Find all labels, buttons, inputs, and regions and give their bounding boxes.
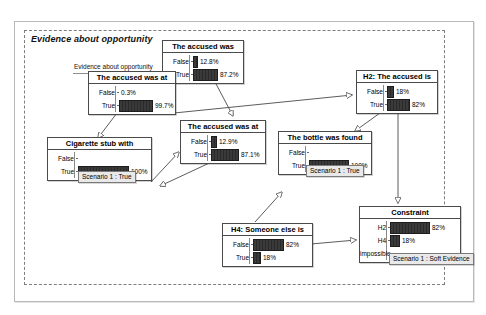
- chart-row-label: False: [48, 155, 76, 163]
- chart-bar-wrap: 82%: [387, 99, 435, 110]
- chart-row-label: True: [357, 101, 385, 109]
- chart-row-label: True: [223, 254, 251, 262]
- scenario-badge[interactable]: Scenario 1 : Soft Evidence: [389, 253, 474, 265]
- chart-row-label: True: [181, 151, 209, 159]
- chart-row: True99.7%: [89, 99, 173, 112]
- chart-bar-value: 87.2%: [220, 71, 238, 79]
- chart-bar-value: 18%: [263, 254, 276, 262]
- chart-bar-wrap: 18%: [390, 235, 458, 246]
- chart-bar-wrap: [309, 147, 369, 158]
- node-title: H2: The accused is: [357, 71, 437, 83]
- node-title: The accused was at: [181, 121, 265, 133]
- chart-row: True82%: [357, 98, 435, 111]
- chart-bar-value: 99.7%: [155, 102, 173, 110]
- chart-row-label: H2: [360, 224, 388, 232]
- chart-row-label: False: [279, 149, 307, 157]
- chart-row: False: [279, 146, 369, 159]
- chart-row-label: False: [181, 138, 209, 146]
- chart-bar-value: 12.8%: [200, 58, 218, 66]
- chart-bar-wrap: 82%: [390, 222, 458, 233]
- chart-row: False18%: [357, 85, 435, 98]
- chart-bar: [193, 69, 218, 81]
- node-h4-someone-else[interactable]: H4: Someone else isFalse82%True18%: [222, 223, 313, 267]
- node-title: H4: Someone else is: [223, 224, 312, 236]
- chart-bar: [193, 56, 198, 68]
- floating-node-label: Evidence about opportunity: [74, 63, 153, 71]
- node-title: Constraint: [360, 207, 460, 219]
- scenario-badge[interactable]: Scenario 1 : True: [306, 165, 364, 177]
- chart-bar-wrap: 99.7%: [119, 100, 173, 111]
- chart-row-label: False: [357, 88, 385, 96]
- node-title: The accused was at: [89, 72, 175, 84]
- chart-row-label: False: [163, 58, 191, 66]
- chart-bar-value: 87.1%: [241, 151, 259, 159]
- chart-row: False82%: [223, 238, 310, 251]
- chart-row: False: [48, 152, 149, 165]
- chart-row-label: False: [89, 89, 117, 97]
- chart-row: H418%: [360, 234, 458, 247]
- diagram-canvas: Evidence about opportunity Evidence abou…: [0, 0, 486, 315]
- node-chart: False82%True18%: [223, 236, 312, 266]
- node-chart: False18%True82%: [357, 83, 437, 113]
- chart-bar: [253, 252, 261, 264]
- node-accused-was-at-mid[interactable]: The accused was atFalse12.9%True87.1%: [180, 120, 266, 164]
- chart-bar-value: 0.3%: [121, 89, 136, 97]
- chart-bar: [390, 222, 430, 234]
- chart-bar-value: 82%: [286, 241, 299, 249]
- chart-bar-wrap: 18%: [387, 86, 435, 97]
- node-title: The bottle was found: [279, 132, 371, 144]
- chart-bar-wrap: 87.2%: [193, 69, 241, 80]
- node-accused-was-at-left[interactable]: The accused was atFalse0.3%True99.7%: [88, 71, 176, 115]
- chart-bar-value: 82%: [412, 101, 425, 109]
- chart-bar-wrap: 87.1%: [211, 149, 263, 160]
- chart-bar: [211, 149, 239, 161]
- chart-row: False0.3%: [89, 86, 173, 99]
- chart-bar-wrap: 12.9%: [211, 136, 263, 147]
- chart-bar: [387, 99, 410, 111]
- group-title: Evidence about opportunity: [31, 34, 153, 44]
- chart-row: False12.9%: [181, 135, 263, 148]
- chart-row: False12.8%: [163, 55, 241, 68]
- chart-bar-value: 18%: [396, 88, 409, 96]
- chart-row-label: True: [89, 102, 117, 110]
- chart-row-label: True: [279, 162, 307, 170]
- chart-bar-wrap: 18%: [253, 252, 310, 263]
- chart-bar-wrap: 12.8%: [193, 56, 241, 67]
- chart-bar-value: 82%: [432, 224, 445, 232]
- chart-bar-wrap: 0.3%: [119, 87, 173, 98]
- node-chart: False12.9%True87.1%: [181, 133, 265, 163]
- chart-row-label: impossible: [360, 250, 388, 258]
- node-title: The accused was: [163, 41, 243, 53]
- chart-bar: [211, 136, 217, 148]
- chart-bar: [119, 100, 153, 112]
- chart-row: True87.1%: [181, 148, 263, 161]
- chart-bar-wrap: 82%: [253, 239, 310, 250]
- node-title: Cigarette stub with: [48, 138, 151, 150]
- scenario-badge[interactable]: Scenario 1 : True: [78, 171, 136, 183]
- chart-row-label: True: [48, 168, 76, 176]
- chart-bar-wrap: [78, 153, 149, 164]
- node-h2-accused-is[interactable]: H2: The accused isFalse18%True82%: [356, 70, 438, 114]
- chart-bar: [253, 239, 284, 251]
- chart-bar-value: 12.9%: [219, 138, 237, 146]
- chart-row: True18%: [223, 251, 310, 264]
- chart-row-label: False: [223, 241, 251, 249]
- chart-bar-value: 18%: [402, 237, 415, 245]
- chart-row: H282%: [360, 221, 458, 234]
- chart-bar: [387, 86, 394, 98]
- chart-bar: [390, 235, 400, 247]
- chart-row-label: H4: [360, 237, 388, 245]
- node-chart: False0.3%True99.7%: [89, 84, 175, 114]
